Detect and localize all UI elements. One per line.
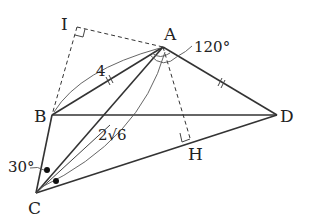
geometry-diagram: A B C D I H 4 2√6 120° 30°: [0, 0, 314, 224]
segment-BC: [36, 115, 52, 193]
tick-marks-AD: [218, 78, 225, 88]
label-length-AC: 2√6: [98, 126, 127, 144]
right-angle-mark-H: [180, 133, 190, 142]
label-angle-C: 30°: [8, 158, 35, 176]
segment-IA: [77, 27, 163, 47]
angle-dot-BCA: [44, 167, 50, 173]
segment-CD: [36, 115, 277, 193]
angle-arc-A-label-leader: [178, 46, 192, 56]
label-length-AB: 4: [96, 62, 106, 80]
label-point-I: I: [61, 14, 68, 34]
label-point-H: H: [188, 144, 203, 164]
label-point-B: B: [34, 106, 47, 126]
angle-dot-ACD: [53, 178, 59, 184]
label-point-D: D: [280, 106, 294, 126]
label-point-C: C: [28, 198, 41, 218]
label-angle-A: 120°: [194, 38, 230, 56]
label-point-A: A: [163, 24, 177, 44]
